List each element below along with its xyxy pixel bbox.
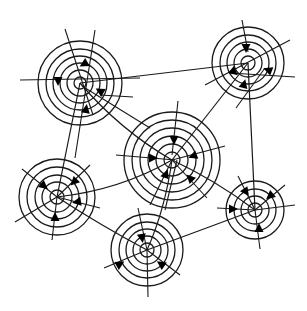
arrowhead-icon: [154, 257, 167, 270]
node-a: [20, 29, 150, 158]
edge-b-f: [248, 63, 255, 210]
node-f: [217, 176, 295, 249]
arrowhead-icon: [183, 171, 196, 184]
diagram-svg: [0, 0, 307, 311]
arrowhead-icon: [77, 58, 89, 70]
edge-b-c: [172, 63, 248, 160]
arrowhead-icon: [54, 77, 63, 86]
spoke-line: [100, 95, 133, 97]
arrowhead-icon: [51, 212, 60, 221]
spoke-line: [116, 155, 175, 160]
edge-e-f: [147, 210, 255, 250]
node-e: [104, 208, 183, 297]
arrowhead-icon: [228, 66, 241, 79]
arrowhead-icon: [67, 176, 80, 189]
network-diagram: [0, 0, 307, 311]
spoke-line: [172, 146, 225, 160]
node-d: [15, 159, 100, 240]
